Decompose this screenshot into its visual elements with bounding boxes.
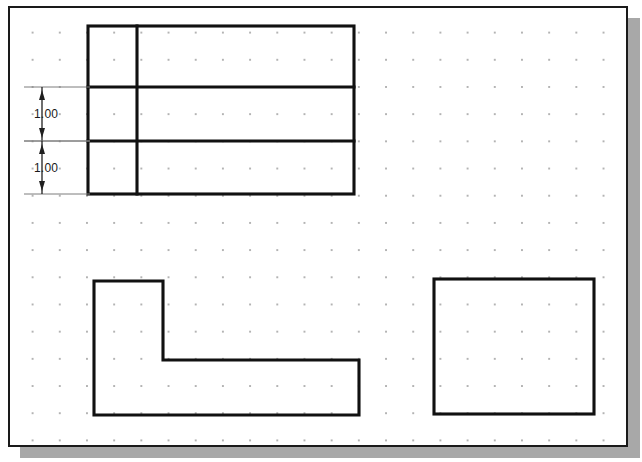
view-front-l-shape[interactable] [94, 281, 359, 415]
dimension-upper-label: 1.00 [34, 108, 58, 120]
dimension-lower-label: 1.00 [34, 162, 58, 174]
dimension-lower-arrow-bottom [39, 181, 45, 191]
view-top-subdivided-rectangle[interactable] [88, 26, 354, 194]
side-view-outline[interactable] [434, 279, 594, 414]
cad-drawing-screenshot: 1.00 1.00 [0, 0, 642, 462]
dimension-upper-arrow-bottom [39, 128, 45, 138]
view-side-rectangle[interactable] [434, 279, 594, 414]
drawing-sheet[interactable]: 1.00 1.00 [8, 6, 628, 447]
drawing-geometry-canvas[interactable] [10, 8, 626, 445]
l-shape-outline[interactable] [94, 281, 359, 415]
dimension-upper-arrow-top [39, 90, 45, 100]
top-view-outline[interactable] [88, 26, 354, 194]
dimension-lower-arrow-top [39, 144, 45, 154]
